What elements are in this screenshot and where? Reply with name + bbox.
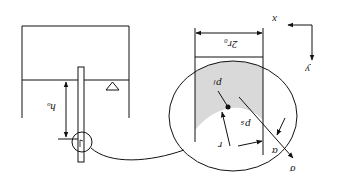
capillary-tube — [78, 67, 84, 162]
label-sigma: σ — [290, 164, 295, 175]
label-p-l: pₗ — [214, 78, 222, 89]
capillary-diagram: hₒ 2r₀ pₗ pₛ r α σ x y — [0, 0, 337, 189]
label-r: r — [218, 140, 222, 151]
coordinate-axes — [288, 25, 312, 60]
tank — [22, 26, 129, 118]
label-2r0: 2r₀ — [224, 39, 238, 50]
label-h-w: hₒ — [47, 102, 56, 113]
label-p-s: pₛ — [241, 119, 251, 130]
water-level-marker-icon — [106, 82, 119, 90]
label-y-axis: y — [305, 64, 310, 75]
label-x-axis: x — [272, 14, 277, 25]
diagram-graphic — [0, 0, 337, 189]
label-alpha: α — [272, 146, 278, 157]
